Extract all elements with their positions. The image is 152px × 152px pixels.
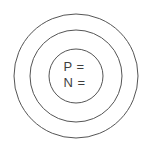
electron-shell-2-ring xyxy=(14,14,138,138)
bohr-model-diagram: P = N = xyxy=(0,0,152,152)
nucleus-ring xyxy=(49,49,103,103)
electron-shell-1-ring xyxy=(30,30,122,122)
atom-rings-svg xyxy=(0,0,152,152)
